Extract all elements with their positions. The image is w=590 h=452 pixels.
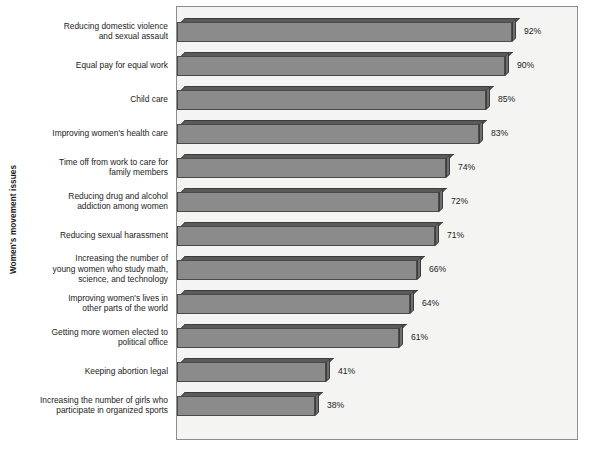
bar-front-face	[177, 158, 446, 178]
bar-end-cap	[505, 52, 509, 76]
category-label: Improving women's health care	[0, 128, 168, 138]
category-label: Time off from work to care for family me…	[0, 157, 168, 178]
category-label: Reducing drug and alcohol addiction amon…	[0, 191, 168, 212]
bar-value-label: 61%	[411, 332, 428, 342]
bar-value-label: 92%	[524, 26, 541, 36]
bar-2	[177, 52, 515, 78]
bar-value-label: 90%	[517, 60, 534, 70]
category-label: Reducing domestic violence and sexual as…	[0, 21, 168, 42]
bar-4	[177, 120, 489, 146]
bar-end-cap	[435, 222, 439, 246]
bar-top-face	[181, 358, 334, 362]
bar-top-face	[181, 154, 454, 158]
bar-9	[177, 290, 420, 316]
bar-front-face	[177, 56, 505, 76]
bar-10	[177, 324, 409, 350]
bar-top-face	[181, 392, 323, 396]
category-label-column: Reducing domestic violence and sexual as…	[0, 6, 172, 440]
bar-end-cap	[479, 120, 483, 144]
bar-top-face	[181, 52, 513, 56]
bar-end-cap	[326, 358, 330, 382]
bar-end-cap	[410, 290, 414, 314]
bar-top-face	[181, 86, 494, 90]
category-label: Keeping abortion legal	[0, 366, 168, 376]
bar-front-face	[177, 328, 399, 348]
bar-front-face	[177, 294, 410, 314]
bar-top-face	[181, 222, 443, 226]
bar-value-label: 72%	[451, 196, 468, 206]
bar-top-face	[181, 120, 487, 124]
bar-top-face	[181, 256, 425, 260]
bar-front-face	[177, 260, 417, 280]
plot-area: 92%90%85%83%74%72%71%66%64%61%41%38%	[176, 6, 578, 440]
bar-end-cap	[439, 188, 443, 212]
bar-end-cap	[315, 392, 319, 416]
bar-top-face	[181, 324, 407, 328]
bar-value-label: 64%	[422, 298, 439, 308]
bar-value-label: 74%	[458, 162, 475, 172]
bar-front-face	[177, 396, 315, 416]
bar-5	[177, 154, 456, 180]
bar-3	[177, 86, 496, 112]
bar-front-face	[177, 362, 326, 382]
bar-7	[177, 222, 445, 248]
bar-8	[177, 256, 427, 282]
category-label: Equal pay for equal work	[0, 60, 168, 70]
bar-front-face	[177, 226, 435, 246]
bar-end-cap	[446, 154, 450, 178]
bar-chart: Women's movement issues Reducing domesti…	[0, 0, 590, 452]
bar-front-face	[177, 90, 486, 110]
bar-6	[177, 188, 449, 214]
bar-front-face	[177, 22, 512, 42]
bar-front-face	[177, 124, 479, 144]
bar-12	[177, 392, 325, 418]
bar-value-label: 71%	[447, 230, 464, 240]
bar-end-cap	[486, 86, 490, 110]
category-label: Increasing the number of young women who…	[0, 253, 168, 284]
bar-value-label: 38%	[327, 400, 344, 410]
category-label: Getting more women elected to political …	[0, 327, 168, 348]
category-label: Improving women's lives in other parts o…	[0, 293, 168, 314]
category-label: Increasing the number of girls who parti…	[0, 395, 168, 416]
bar-end-cap	[399, 324, 403, 348]
category-label: Child care	[0, 94, 168, 104]
bar-end-cap	[512, 18, 516, 42]
bar-top-face	[181, 18, 520, 22]
bar-top-face	[181, 290, 418, 294]
bar-value-label: 66%	[429, 264, 446, 274]
category-label: Reducing sexual harassment	[0, 230, 168, 240]
bar-end-cap	[417, 256, 421, 280]
bar-value-label: 41%	[338, 366, 355, 376]
bar-value-label: 85%	[498, 94, 515, 104]
bar-1	[177, 18, 522, 44]
bar-front-face	[177, 192, 439, 212]
bar-11	[177, 358, 336, 384]
bar-top-face	[181, 188, 447, 192]
bar-value-label: 83%	[491, 128, 508, 138]
